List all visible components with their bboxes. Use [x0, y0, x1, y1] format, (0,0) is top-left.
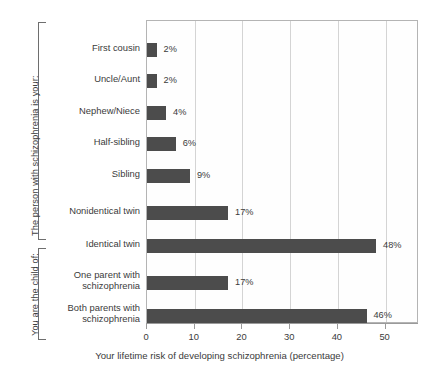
- x-axis-title: Your lifetime risk of developing schizop…: [0, 350, 439, 361]
- gridline-40: [338, 21, 339, 322]
- x-axis-tick-label: 30: [284, 331, 294, 342]
- category-label-line: Half-sibling: [40, 137, 140, 148]
- bar: [147, 169, 190, 183]
- x-axis-tick: [337, 324, 338, 329]
- x-axis-tick: [194, 324, 195, 329]
- category-label: First cousin: [40, 43, 140, 54]
- bar: [147, 43, 157, 57]
- x-axis-tick-label: 20: [236, 331, 246, 342]
- x-axis-tick: [146, 324, 147, 329]
- bar: [147, 206, 228, 220]
- x-axis-tick-label: 40: [332, 331, 342, 342]
- category-label: Identical twin: [40, 239, 140, 250]
- x-axis-line: [146, 323, 418, 324]
- category-label: Half-sibling: [40, 137, 140, 148]
- group-label-bottom: You are the child of:: [30, 253, 40, 336]
- x-axis-tick-label: 50: [379, 331, 389, 342]
- bar: [147, 309, 367, 323]
- category-label: Nonidentical twin: [40, 206, 140, 217]
- gridline-50: [386, 21, 387, 322]
- bar-value-label: 2%: [164, 44, 177, 54]
- bar: [147, 74, 157, 88]
- bar-value-label: 4%: [173, 107, 186, 117]
- bar-value-label: 17%: [235, 207, 253, 217]
- bar: [147, 137, 176, 151]
- category-label: Both parents withschizophrenia: [40, 303, 140, 324]
- group-label-top: The person with schizophrenia is your:: [30, 75, 40, 236]
- chart-figure: The person with schizophrenia is your: Y…: [0, 0, 439, 385]
- bar: [147, 106, 166, 120]
- bar-value-label: 17%: [235, 277, 253, 287]
- category-label: Nephew/Niece: [40, 106, 140, 117]
- x-axis-tick: [289, 324, 290, 329]
- bar-value-label: 48%: [383, 240, 401, 250]
- bar-value-label: 46%: [374, 310, 392, 320]
- category-label-line: Sibling: [40, 169, 140, 180]
- category-label-line: First cousin: [40, 43, 140, 54]
- x-axis-tick-label: 0: [143, 331, 148, 342]
- bar-value-label: 2%: [164, 75, 177, 85]
- category-label-line: Identical twin: [40, 239, 140, 250]
- x-axis-tick: [241, 324, 242, 329]
- x-axis-tick-label: 10: [189, 331, 199, 342]
- category-label: Uncle/Aunt: [40, 74, 140, 85]
- category-label-line: schizophrenia: [40, 281, 140, 292]
- category-label-line: Nonidentical twin: [40, 206, 140, 217]
- plot-area: 2%2%4%6%9%17%48%17%46%: [146, 20, 418, 323]
- gridline-30: [290, 21, 291, 322]
- category-label-line: Nephew/Niece: [40, 106, 140, 117]
- bar-value-label: 6%: [183, 138, 196, 148]
- category-label: Sibling: [40, 169, 140, 180]
- bar: [147, 239, 376, 253]
- bar: [147, 276, 228, 290]
- category-label: One parent withschizophrenia: [40, 270, 140, 291]
- category-label-line: Uncle/Aunt: [40, 74, 140, 85]
- category-label-line: schizophrenia: [40, 314, 140, 325]
- x-axis-tick: [385, 324, 386, 329]
- bar-value-label: 9%: [197, 170, 210, 180]
